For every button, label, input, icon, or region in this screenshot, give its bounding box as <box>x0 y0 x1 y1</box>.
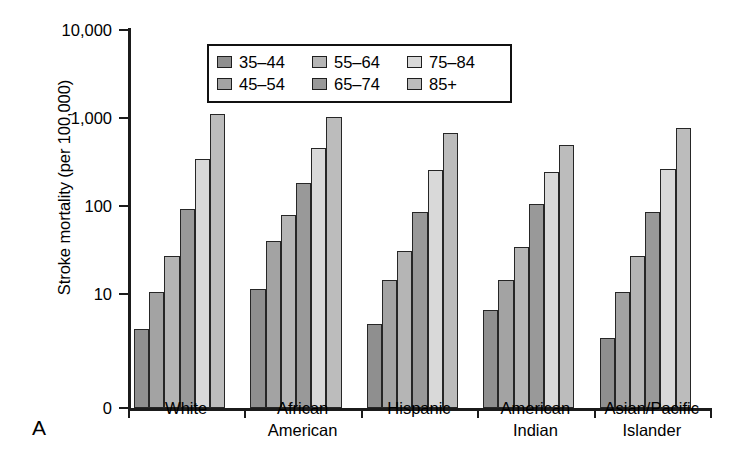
bar <box>443 133 458 408</box>
bar <box>164 256 179 408</box>
bar <box>250 289 265 408</box>
bar <box>397 251 412 408</box>
bar <box>311 148 326 408</box>
bar <box>498 280 513 408</box>
y-axis-tick-label: 10,000 <box>62 22 112 39</box>
panel-label: A <box>32 416 46 440</box>
x-axis-category-label: Asian/PacificIslander <box>582 398 722 442</box>
bar <box>645 212 660 408</box>
bar <box>180 209 195 408</box>
bar <box>412 212 427 408</box>
category-label-line: American <box>232 420 372 442</box>
bar <box>559 145 574 409</box>
bar <box>134 329 149 408</box>
y-axis-title: Stroke mortality (per 100,000) <box>55 28 74 348</box>
bar <box>544 172 559 408</box>
bar <box>149 292 164 408</box>
bar <box>266 241 281 408</box>
bar <box>210 114 225 408</box>
y-axis-tick-label: 1,000 <box>71 110 112 127</box>
figure-panel-a: Stroke mortality (per 100,000) 35–44 55–… <box>0 0 738 472</box>
bar <box>676 128 691 409</box>
bar <box>514 247 529 408</box>
bar <box>630 256 645 408</box>
bar <box>660 169 675 408</box>
bar <box>615 292 630 408</box>
plot-area: 10,0001,000100100 <box>128 28 710 410</box>
bar-group <box>594 28 710 408</box>
bar <box>529 204 544 408</box>
bar <box>195 159 210 408</box>
bar <box>296 183 311 409</box>
bar <box>483 310 498 408</box>
bar-group <box>128 28 244 408</box>
y-axis-tick-label: 10 <box>94 286 112 303</box>
bar-group <box>361 28 477 408</box>
bar <box>382 280 397 408</box>
bar <box>326 117 341 408</box>
y-axis-tick-label: 100 <box>84 198 112 215</box>
category-label-line: Islander <box>582 420 722 442</box>
bar <box>281 215 296 408</box>
bar-group <box>477 28 593 408</box>
bar-group <box>244 28 360 408</box>
category-label-line: Asian/Pacific <box>582 398 722 420</box>
y-axis-tick-label: 0 <box>103 400 112 417</box>
bar <box>367 324 382 408</box>
bar <box>428 170 443 408</box>
